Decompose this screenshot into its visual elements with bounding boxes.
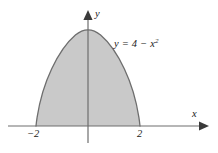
x-axis-arrowhead-icon: [199, 121, 209, 130]
x-tick-label-two: 2: [137, 129, 142, 140]
curve-equation-text: y = 4 − x: [114, 38, 155, 49]
y-axis-arrowhead-icon: [83, 10, 92, 20]
parabola-figure: y = 4 − x2 y x −2 2: [0, 0, 218, 153]
curve-equation-label: y = 4 − x2: [114, 39, 159, 50]
y-axis-label: y: [95, 9, 100, 20]
x-tick-label-negative-two: −2: [27, 129, 39, 140]
x-axis-label: x: [192, 109, 197, 120]
curve-equation-exponent: 2: [155, 37, 159, 45]
